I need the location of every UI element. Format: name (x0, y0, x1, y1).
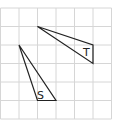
triangle-s-label: S (37, 89, 44, 102)
grid-lines (1, 8, 112, 119)
grid-diagram: T S (0, 0, 115, 131)
triangle-t-label: T (82, 46, 90, 59)
